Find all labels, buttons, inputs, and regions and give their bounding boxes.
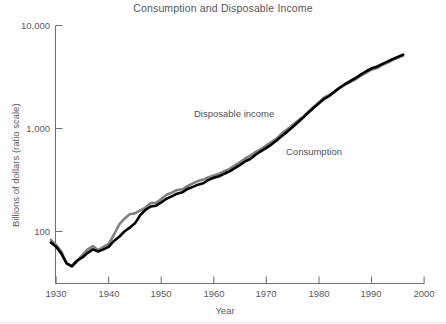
x-tick-label-1990: 1990 xyxy=(360,288,381,299)
chart-plot-area: 10,000 1,000 100 1930 1940 1950 1960 197… xyxy=(0,0,446,324)
y-axis-title: Billions of dollars (ratio scale) xyxy=(10,103,21,227)
x-tick-label-1970: 1970 xyxy=(255,288,276,299)
series-label-disposable-income: Disposable income xyxy=(194,108,274,119)
x-axis-title: Year xyxy=(215,305,234,316)
x-tick-label-2000: 2000 xyxy=(413,288,434,299)
y-tick-label-1000: 1,000 xyxy=(26,123,50,134)
chart-figure: Consumption and Disposable Income 10,000… xyxy=(0,0,446,324)
x-tick-label-1930: 1930 xyxy=(45,288,66,299)
y-tick-label-10000: 10,000 xyxy=(21,20,50,31)
x-tick-label-1940: 1940 xyxy=(98,288,119,299)
series-label-consumption: Consumption xyxy=(286,146,342,157)
y-tick-label-100: 100 xyxy=(34,226,50,237)
series-line-consumption xyxy=(51,55,403,267)
series-line-disposable-income xyxy=(51,56,403,267)
bottom-divider xyxy=(0,322,446,323)
x-tick-label-1960: 1960 xyxy=(203,288,224,299)
x-tick-label-1950: 1950 xyxy=(150,288,171,299)
x-tick-label-1980: 1980 xyxy=(308,288,329,299)
